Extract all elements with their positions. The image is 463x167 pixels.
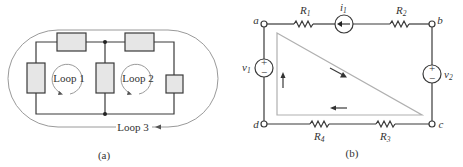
loop-3-label: Loop 3 bbox=[117, 121, 149, 133]
resistor-r3-zigzag bbox=[376, 121, 395, 127]
figure-a: Loop 1 Loop 2 Loop 3 (a) bbox=[8, 30, 218, 162]
element-right bbox=[166, 75, 183, 93]
v2-minus: − bbox=[429, 72, 435, 84]
r1-label: R1 bbox=[299, 4, 310, 18]
node-d-label: d bbox=[253, 118, 259, 130]
caption-b: (b) bbox=[346, 147, 359, 160]
loop-1-label: Loop 1 bbox=[53, 72, 84, 84]
junction-top bbox=[103, 40, 107, 44]
arrow-up-icon bbox=[281, 72, 286, 78]
v1-minus: − bbox=[261, 66, 267, 78]
resistor-r1-zigzag bbox=[294, 21, 313, 27]
wire-top-right bbox=[154, 42, 174, 75]
loop-2-label: Loop 2 bbox=[122, 72, 153, 84]
caption-a: (a) bbox=[98, 149, 111, 162]
element-left bbox=[27, 63, 45, 93]
arrow-left-loop-icon bbox=[330, 106, 336, 111]
circuit-figure: Loop 1 Loop 2 Loop 3 (a) + − + − bbox=[0, 0, 463, 167]
resistor-r4-zigzag bbox=[310, 121, 329, 127]
v1-label: v1 bbox=[242, 61, 251, 75]
loop-path-triangle bbox=[277, 33, 422, 115]
node-c bbox=[429, 121, 435, 127]
i1-label: i1 bbox=[340, 1, 347, 15]
figure-b: + − + − a b c d R1 i1 R2 v1 v2 R4 R3 bbox=[242, 1, 453, 160]
v2-label: v2 bbox=[444, 68, 453, 82]
node-d bbox=[261, 121, 267, 127]
node-a-label: a bbox=[253, 14, 259, 26]
element-middle bbox=[96, 63, 114, 93]
element-top-right bbox=[125, 33, 154, 51]
r3-label: R3 bbox=[379, 130, 391, 144]
wire-top-left bbox=[36, 42, 57, 63]
element-top-left bbox=[57, 33, 86, 51]
node-c-label: c bbox=[439, 118, 444, 130]
arrow-down-right-icon bbox=[340, 72, 347, 78]
loop-3-arrow-icon bbox=[155, 125, 161, 130]
node-a bbox=[261, 21, 267, 27]
r4-label: R4 bbox=[313, 130, 325, 144]
r2-label: R2 bbox=[395, 4, 407, 18]
node-b-label: b bbox=[437, 14, 443, 26]
node-b bbox=[429, 21, 435, 27]
arrow-left-icon bbox=[337, 21, 342, 27]
junction-bottom bbox=[103, 112, 107, 116]
resistor-r2-zigzag bbox=[390, 21, 409, 27]
